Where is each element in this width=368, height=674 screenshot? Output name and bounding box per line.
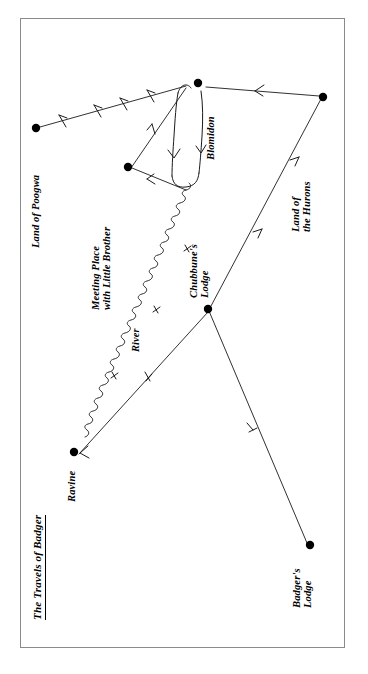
map-label-chubbune-line1: Chubbune's [188, 208, 199, 298]
figure-page: The Travels of Badger Land of Poogwa Mee… [0, 0, 368, 674]
map-label-meeting-place-line1: Meeting Place [90, 190, 101, 310]
map-label-badgers-line2: Lodge [302, 528, 313, 608]
map-label-land-of-poogwa: Land of Poogwa [30, 175, 41, 248]
figure-title: The Travels of Badger [32, 515, 46, 620]
map-label-river: River [130, 328, 141, 352]
map-label-hurons-line1: Land of [290, 142, 301, 232]
map-label-meeting-place-line2: with Little Brother [101, 190, 112, 310]
map-label-blomidon: Blomidon [205, 116, 216, 160]
map-label-chubbune-line2: Lodge [199, 208, 210, 298]
map-label-ravine: Ravine [66, 471, 77, 502]
map-label-badgers-lodge: Badger's Lodge [291, 528, 313, 608]
map-label-land-of-the-hurons: Land of the Hurons [290, 142, 312, 232]
map-label-badgers-line1: Badger's [291, 528, 302, 608]
map-label-hurons-line2: the Hurons [301, 142, 312, 232]
map-label-chubbunes-lodge: Chubbune's Lodge [188, 208, 210, 298]
map-label-meeting-place: Meeting Place with Little Brother [90, 190, 112, 310]
